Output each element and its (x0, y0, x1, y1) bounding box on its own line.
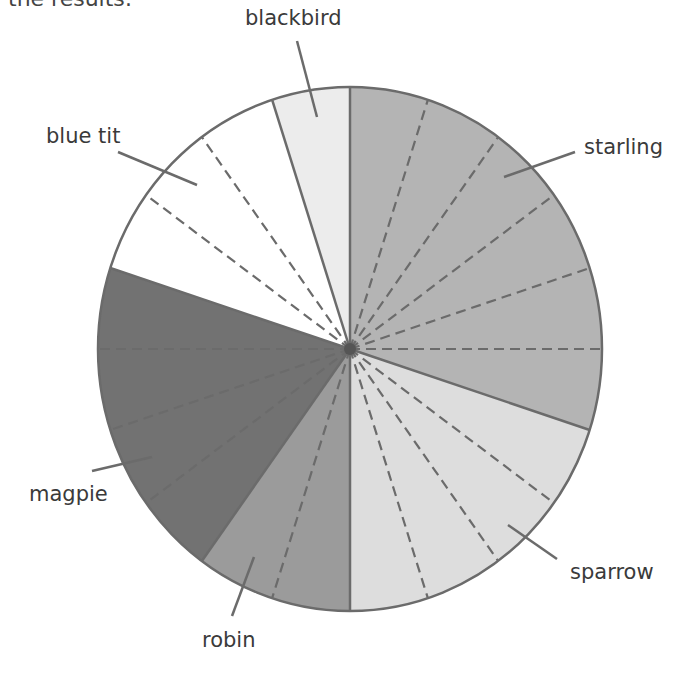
pie-center-dot (344, 343, 356, 355)
label-sparrow: sparrow (570, 560, 654, 584)
label-magpie: magpie (29, 482, 108, 506)
label-robin: robin (202, 628, 256, 652)
label-blackbird: blackbird (245, 6, 342, 30)
label-starling: starling (584, 135, 663, 159)
label-blue-tit: blue tit (46, 124, 120, 148)
